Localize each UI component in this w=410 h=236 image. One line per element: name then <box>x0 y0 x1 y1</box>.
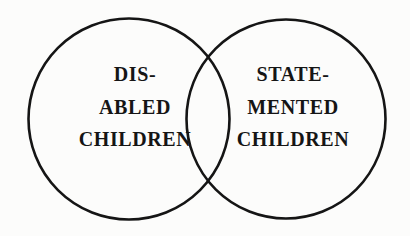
right-set-label-line-3: CHILDREN <box>193 123 393 156</box>
right-set-label-line-1: STATE- <box>193 58 393 91</box>
right-set-label: STATE- MENTED CHILDREN <box>193 58 393 156</box>
venn-diagram: DIS- ABLED CHILDREN STATE- MENTED CHILDR… <box>0 0 410 236</box>
right-set-label-line-2: MENTED <box>193 91 393 124</box>
